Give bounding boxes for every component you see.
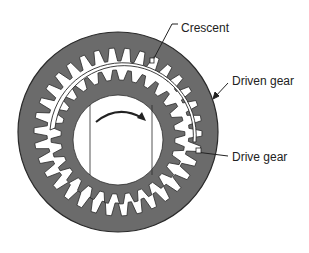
drive-gear-bore: [73, 95, 163, 185]
internal-gear-pump-diagram: [0, 0, 309, 253]
driven-gear-label: Driven gear: [232, 75, 294, 87]
drive-gear-label: Drive gear: [232, 151, 287, 163]
crescent-label: Crescent: [181, 22, 229, 34]
